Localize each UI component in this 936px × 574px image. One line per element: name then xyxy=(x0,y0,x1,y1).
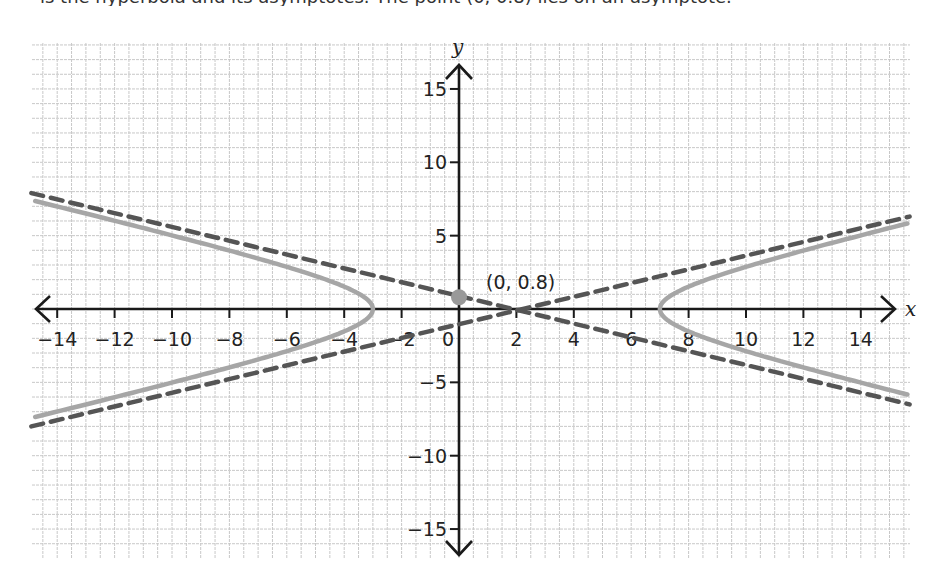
y-tick-label: 10 xyxy=(423,151,447,173)
x-tick-label: −8 xyxy=(215,328,243,350)
x-tick-label: 2 xyxy=(510,328,522,350)
x-tick-label: 14 xyxy=(849,328,873,350)
y-axis-label: y xyxy=(451,35,464,59)
y-tick-label: 5 xyxy=(435,225,447,247)
x-axis-label: x xyxy=(905,297,916,321)
annotations: (0, 0.8) xyxy=(451,271,555,305)
asymptote-2-line xyxy=(31,217,909,427)
x-tick-label: −12 xyxy=(95,328,135,350)
point-label: (0, 0.8) xyxy=(486,271,555,293)
y-tick-label: −10 xyxy=(407,445,447,467)
x-tick-label: 12 xyxy=(791,328,815,350)
x-tick-label: −14 xyxy=(37,328,77,350)
axes: xy xyxy=(36,35,916,555)
y-tick-label: −5 xyxy=(419,371,447,393)
asymptote-1-line xyxy=(31,193,909,404)
y-tick-label: 15 xyxy=(423,78,447,100)
x-tick-label: 4 xyxy=(568,328,580,350)
x-tick-label: 0 xyxy=(442,328,454,350)
point-marker xyxy=(451,289,467,305)
hyperbola-chart: xy −14−12−10−8−6−4−202468101214−15−10−55… xyxy=(0,0,936,574)
x-tick-label: −10 xyxy=(152,328,192,350)
y-tick-label: −15 xyxy=(407,518,447,540)
